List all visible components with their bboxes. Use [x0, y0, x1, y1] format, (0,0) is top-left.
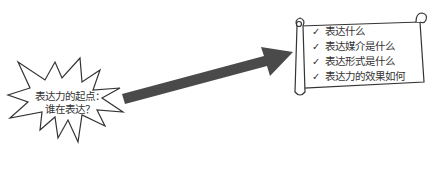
check-icon: ✓ [312, 39, 325, 54]
checklist-item-label: 表达力的效果如何 [325, 70, 405, 82]
starburst-line-1: 表达力的起点： [20, 90, 120, 103]
checklist-item: ✓表达媒介是什么 [312, 39, 405, 54]
check-icon: ✓ [312, 24, 325, 39]
scroll-checklist: ✓表达什么 ✓表达媒介是什么 ✓表达形式是什么 ✓表达力的效果如何 [312, 24, 405, 84]
checklist-item: ✓表达什么 [312, 24, 405, 39]
checklist-item-label: 表达媒介是什么 [325, 40, 395, 52]
check-icon: ✓ [312, 69, 325, 84]
checklist-item-label: 表达什么 [325, 25, 365, 37]
starburst-label: 表达力的起点： 谁在表达？ [20, 90, 120, 116]
checklist-item-label: 表达形式是什么 [325, 55, 395, 67]
check-icon: ✓ [312, 54, 325, 69]
checklist-item: ✓表达力的效果如何 [312, 69, 405, 84]
arrow-shape [122, 47, 293, 104]
starburst-line-2: 谁在表达？ [20, 103, 120, 116]
checklist-item: ✓表达形式是什么 [312, 54, 405, 69]
